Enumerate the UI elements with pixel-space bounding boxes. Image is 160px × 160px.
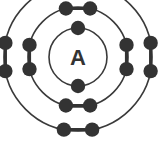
electron-shell2-3 xyxy=(83,98,97,112)
electron-shell2-7 xyxy=(119,38,133,52)
electron-shell3-6 xyxy=(0,36,13,50)
electron-shell2-5 xyxy=(22,62,36,76)
nucleus-element-label: A xyxy=(70,45,86,70)
electron-shell3-3 xyxy=(85,122,99,136)
electron-shell2-4 xyxy=(59,98,73,112)
electron-shell2-1 xyxy=(59,1,73,15)
bohr-model-diagram: A xyxy=(0,0,160,160)
electron-shell3-4 xyxy=(57,122,71,136)
atom-diagram-canvas: A xyxy=(0,0,160,160)
electron-shell2-2 xyxy=(83,1,97,15)
electron-shell3-8 xyxy=(143,64,157,78)
electron-shell3-5 xyxy=(0,64,13,78)
electron-shell2-8 xyxy=(119,62,133,76)
electron-shell1-1 xyxy=(71,21,85,35)
electron-shell1-2 xyxy=(71,79,85,93)
electron-shell2-6 xyxy=(22,38,36,52)
electron-shell3-7 xyxy=(143,36,157,50)
